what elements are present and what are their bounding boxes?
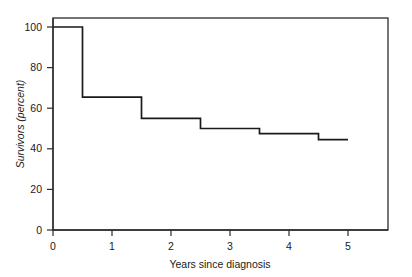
y-tick-label-60: 60 [30,102,42,114]
x-tick-label-4: 4 [286,240,292,252]
x-tick-label-5: 5 [345,240,351,252]
x-tick-label-3: 3 [227,240,233,252]
y-tick-label-0: 0 [36,224,42,236]
survival-step-curve [53,27,348,140]
y-axis-title: Survivors (percent) [14,80,26,169]
y-tick-label-40: 40 [30,142,42,154]
y-tick-label-80: 80 [30,61,42,73]
survival-curve-figure: 0 20 40 60 80 100 0 1 2 3 4 5 Survivors … [0,0,412,277]
y-tick-label-100: 100 [24,21,42,33]
x-tick-label-1: 1 [109,240,115,252]
y-tick-label-20: 20 [30,183,42,195]
x-axis-title: Years since diagnosis [169,258,270,270]
plot-frame [53,18,388,230]
x-tick-label-2: 2 [168,240,174,252]
figure-container: 0 20 40 60 80 100 0 1 2 3 4 5 Survivors … [0,0,412,277]
x-tick-label-0: 0 [50,240,56,252]
